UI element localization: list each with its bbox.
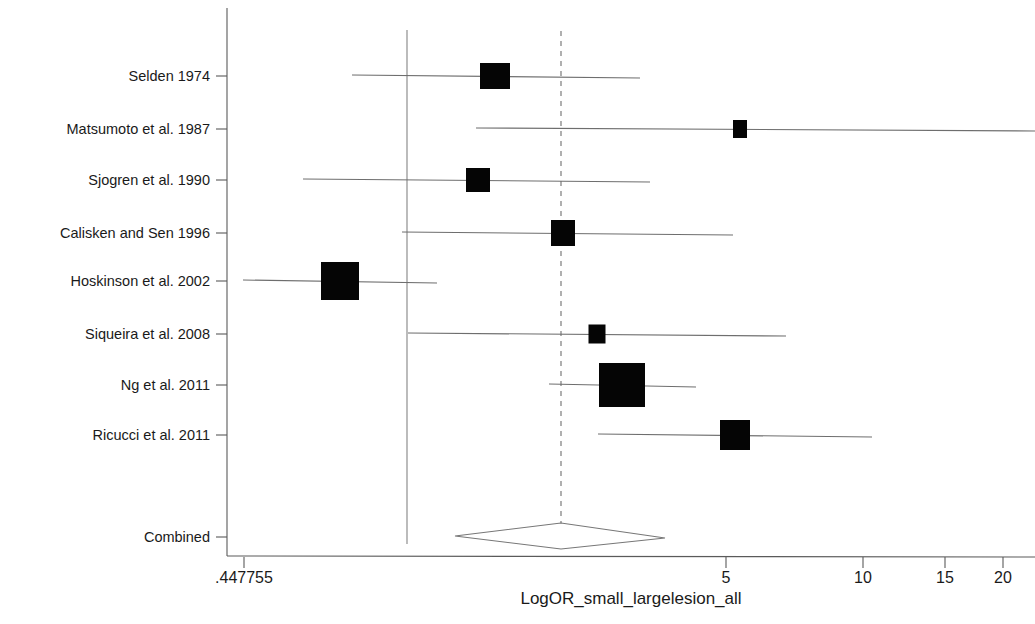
combined-summary	[455, 523, 665, 549]
x-axis-tick-label: 10	[854, 569, 872, 586]
study-weight-marker	[466, 168, 490, 192]
study-row	[408, 325, 786, 344]
study-row	[598, 420, 872, 450]
study-label: Calisken and Sen 1996	[60, 225, 210, 241]
study-weight-marker	[720, 420, 750, 450]
study-weight-marker	[480, 63, 510, 89]
study-weight-marker	[321, 262, 359, 300]
combined-label: Combined	[144, 529, 210, 545]
combined-diamond	[455, 523, 665, 549]
x-axis-title: LogOR_small_largelesion_all	[520, 589, 741, 608]
study-row	[476, 120, 1035, 138]
study-label: Sjogren et al. 1990	[88, 172, 210, 188]
study-weight-marker	[551, 220, 575, 246]
x-axis-tick-label: 15	[936, 569, 954, 586]
study-label: Hoskinson et al. 2002	[71, 273, 210, 289]
reference-lines	[407, 30, 561, 544]
study-label: Siqueira et al. 2008	[85, 326, 210, 342]
forest-plot-canvas: Selden 1974Matsumoto et al. 1987Sjogren …	[0, 0, 1035, 624]
study-label: Matsumoto et al. 1987	[67, 121, 210, 137]
x-axis-tick-label: .447755	[215, 569, 273, 586]
study-row	[402, 220, 733, 246]
study-row	[303, 168, 650, 192]
study-label: Ricucci et al. 2011	[93, 427, 210, 443]
study-row	[352, 63, 640, 89]
study-weight-marker	[733, 120, 747, 138]
x-axis-tick-label: 5	[722, 569, 731, 586]
study-label: Ng et al. 2011	[121, 377, 210, 393]
study-label: Selden 1974	[129, 68, 210, 84]
x-axis-spine	[227, 556, 1035, 557]
confidence-interval-line	[476, 128, 1035, 131]
study-row	[243, 262, 437, 300]
study-rows	[243, 63, 1035, 450]
study-weight-marker	[589, 325, 606, 344]
x-axis-ticks: .4477555101520	[215, 557, 1012, 586]
study-weight-marker	[599, 363, 645, 407]
forest-plot-figure: Selden 1974Matsumoto et al. 1987Sjogren …	[0, 0, 1035, 624]
y-axis-labels: Selden 1974Matsumoto et al. 1987Sjogren …	[60, 68, 227, 545]
study-row	[549, 363, 696, 407]
x-axis-tick-label: 20	[994, 569, 1012, 586]
